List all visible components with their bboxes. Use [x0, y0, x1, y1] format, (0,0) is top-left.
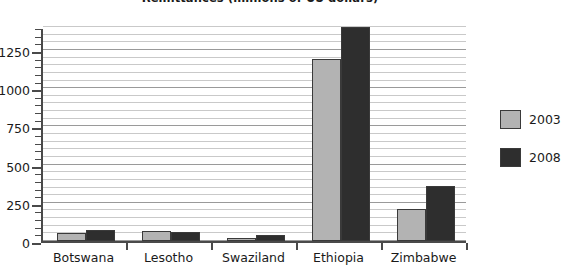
bar-swaziland-2008 — [256, 235, 285, 241]
bar-ethiopia-2008 — [341, 27, 370, 241]
x-tick-label-ethiopia: Ethiopia — [313, 250, 364, 265]
y-tick-label: 750 — [6, 121, 30, 136]
x-tick-label-lesotho: Lesotho — [144, 250, 193, 265]
x-axis: BotswanaLesothoSwazilandEthiopiaZimbabwe — [41, 243, 466, 270]
y-tick-major — [32, 167, 41, 169]
gridline-minor — [43, 26, 466, 27]
chart-legend: 20032008 — [500, 108, 548, 184]
bar-swaziland-2003 — [227, 238, 256, 241]
x-tick-label-swaziland: Swaziland — [222, 250, 285, 265]
legend-item-2003[interactable]: 2003 — [500, 108, 548, 130]
bar-group — [383, 29, 468, 241]
plot-area — [41, 29, 466, 243]
bar-group — [298, 29, 383, 241]
y-tick-major — [32, 205, 41, 207]
x-axis-separator — [211, 243, 213, 250]
bar-groups — [43, 29, 466, 241]
chart-title: Remittances (millions of US dollars) — [60, 0, 460, 5]
y-tick-major — [32, 128, 41, 130]
legend-swatch-2003 — [500, 110, 521, 129]
y-axis: 025050075010001250 — [0, 29, 41, 243]
bar-lesotho-2008 — [171, 232, 200, 241]
bar-group — [213, 29, 298, 241]
bar-botswana-2003 — [57, 233, 86, 241]
x-axis-separator — [126, 243, 128, 250]
bar-lesotho-2003 — [142, 231, 171, 241]
bar-zimbabwe-2003 — [397, 209, 426, 241]
legend-label-2003: 2003 — [529, 112, 561, 127]
legend-item-2008[interactable]: 2008 — [500, 146, 548, 168]
bar-zimbabwe-2008 — [426, 186, 455, 241]
legend-label-2008: 2008 — [529, 150, 561, 165]
y-tick-label: 1250 — [0, 44, 30, 59]
x-axis-separator — [296, 243, 298, 250]
y-tick-label: 250 — [6, 197, 30, 212]
y-tick-label: 1000 — [0, 83, 30, 98]
y-tick-label: 0 — [22, 236, 30, 251]
x-tick-label-zimbabwe: Zimbabwe — [391, 250, 457, 265]
y-tick-label: 500 — [6, 159, 30, 174]
legend-swatch-2008 — [500, 148, 521, 167]
bar-botswana-2008 — [86, 230, 115, 241]
bar-ethiopia-2003 — [312, 59, 341, 241]
y-tick-major — [32, 90, 41, 92]
bar-group — [128, 29, 213, 241]
x-axis-separator-end — [466, 243, 468, 250]
bar-group — [43, 29, 128, 241]
y-tick-major — [32, 52, 41, 54]
y-tick-major — [32, 243, 41, 245]
x-axis-separator — [381, 243, 383, 250]
x-tick-label-botswana: Botswana — [53, 250, 114, 265]
